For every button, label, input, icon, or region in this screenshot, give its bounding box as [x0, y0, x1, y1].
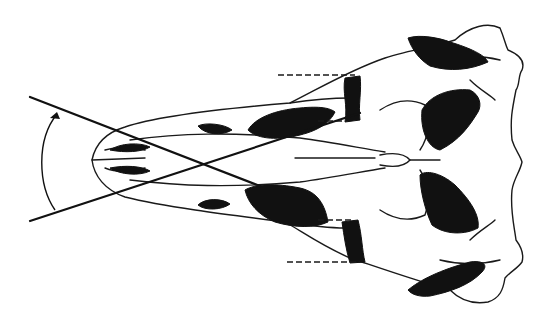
temporal-fenestra-upper-front	[408, 36, 488, 69]
small-opening-upper	[198, 124, 232, 134]
skull-drawing	[0, 0, 554, 322]
orbit-lower	[245, 185, 328, 227]
temporal-fenestra-upper-rear	[422, 90, 480, 150]
small-opening-lower	[198, 200, 230, 209]
arrow-up-icon	[50, 112, 60, 119]
nasal-opening-lower	[110, 166, 150, 174]
orbit-upper	[248, 107, 335, 138]
angle-arc	[42, 112, 60, 210]
temporal-fenestra-lower-front	[408, 262, 485, 297]
angle-arc-path	[42, 114, 57, 210]
skull-diagram	[0, 0, 554, 322]
temporal-fenestra-lower-rear	[420, 172, 478, 232]
